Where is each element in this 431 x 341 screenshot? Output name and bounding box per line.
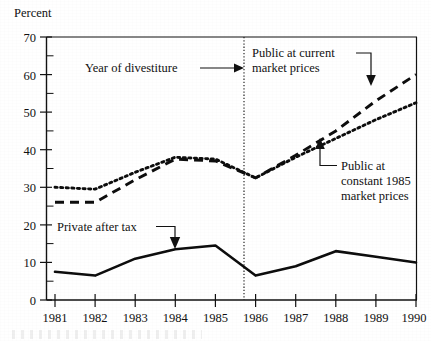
x-tick-label: 1981 [43,311,68,325]
series-private-after-tax [55,246,416,276]
annotation-public-current-line1: Public at current [252,46,335,60]
annotation-divestiture-label: Year of divestiture [85,61,178,75]
y-axis-title: Percent [14,6,52,20]
y-tick-label: 20 [24,219,37,233]
annotation-public-constant-line1: Public at [341,159,386,173]
x-tick-label: 1988 [323,311,348,325]
annotation-public-constant-line2: constant 1985 [341,174,411,188]
annotation-public-constant-line3: market prices [341,189,409,203]
y-axis-tick-labels: 70 60 50 40 30 20 10 0 [24,31,37,308]
y-tick-label: 40 [24,144,37,158]
y-axis-minor-ticks [47,56,54,281]
x-tick-label: 1982 [83,311,108,325]
x-tick-label: 1983 [123,311,148,325]
annotation-public-constant-1985-market-prices: Public at constant 1985 market prices [315,138,411,203]
annotation-public-current-market-prices: Public at current market prices [252,46,376,86]
y-tick-label: 60 [24,69,37,83]
x-tick-label: 1986 [243,311,268,325]
annotation-private-after-tax: Private after tax [57,220,180,249]
x-tick-label: 1985 [203,311,228,325]
x-axis-tick-labels: 1981 1982 1983 1984 1985 1986 1987 1988 … [43,311,427,325]
y-tick-label: 50 [24,106,37,120]
annotation-year-of-divestiture: Year of divestiture [85,61,244,75]
arrow-head-icon [170,237,180,249]
line-chart: Percent [0,0,431,341]
annotation-public-current-line2: market prices [252,61,320,75]
y-tick-label: 10 [24,256,37,270]
y-tick-label: 30 [24,181,37,195]
x-tick-label: 1987 [283,311,308,325]
x-tick-label: 1990 [402,311,427,325]
y-tick-label: 0 [30,294,36,308]
arrow-head-icon [234,63,244,72]
y-tick-label: 70 [24,31,37,45]
x-tick-label: 1984 [163,311,189,325]
annotation-private-after-tax-label: Private after tax [57,220,138,234]
chart-figure: Percent [0,0,431,341]
arrow-head-icon [366,75,376,86]
x-tick-label: 1989 [363,311,388,325]
